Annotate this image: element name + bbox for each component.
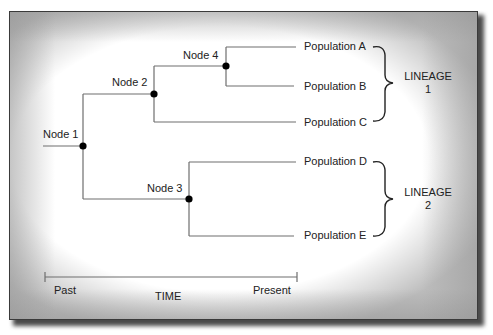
node-2-dot	[150, 90, 157, 97]
node-1-dot	[79, 142, 86, 149]
time-axis-title: TIME	[155, 291, 181, 302]
lineage-1-brace-icon	[373, 47, 393, 121]
lineage-2-title: LINEAGE	[398, 186, 458, 199]
node-1-label: Node 1	[43, 129, 78, 140]
population-a-label: Population A	[304, 41, 366, 52]
lineage-2-number: 2	[398, 199, 458, 212]
population-d-label: Population D	[304, 156, 367, 167]
lineage-2-brace-icon	[373, 162, 393, 236]
lineage-2-label: LINEAGE 2	[398, 186, 458, 212]
node-4-dot	[222, 62, 229, 69]
node-3-label: Node 3	[147, 183, 182, 194]
time-axis-present-label: Present	[253, 285, 291, 296]
node-2-label: Node 2	[112, 77, 147, 88]
node-4-label: Node 4	[183, 50, 218, 61]
population-e-label: Population E	[304, 230, 366, 241]
node-3-dot	[185, 195, 192, 202]
lineage-1-label: LINEAGE 1	[398, 70, 458, 96]
lineage-1-number: 1	[398, 83, 458, 96]
time-axis-past-label: Past	[54, 285, 76, 296]
lineage-1-title: LINEAGE	[398, 70, 458, 83]
population-b-label: Population B	[304, 81, 366, 92]
population-c-label: Population C	[304, 117, 367, 128]
